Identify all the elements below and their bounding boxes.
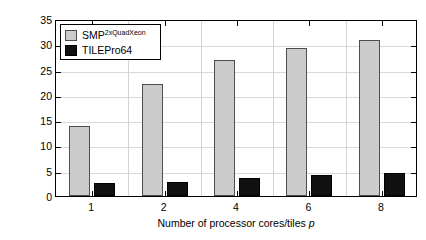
y-tick-mark <box>411 147 416 148</box>
bar-tile-2 <box>167 182 188 196</box>
y-tick-mark <box>411 97 416 98</box>
x-axis-title-variable: p <box>309 217 315 229</box>
legend-item-smp: SMP2xQuadXeon <box>65 28 146 42</box>
x-tick-mark <box>382 21 383 26</box>
y-tick-label: 15 <box>12 115 52 127</box>
x-gridline <box>201 21 202 196</box>
legend-swatch-tilepro64-icon <box>65 45 77 56</box>
legend: SMP2xQuadXeon TILEPro64 <box>60 24 161 60</box>
x-tick-label: 4 <box>216 201 256 213</box>
bar-tile-1 <box>94 183 115 196</box>
y-tick-label: 20 <box>12 90 52 102</box>
bar-smp-4 <box>214 60 235 196</box>
x-axis-title: Number of processor cores/tiles p <box>55 217 417 229</box>
x-tick-mark <box>165 191 166 196</box>
x-tick-mark <box>165 21 166 26</box>
x-tick-mark <box>237 21 238 26</box>
y-tick-mark <box>411 46 416 47</box>
y-tick-label: 25 <box>12 65 52 77</box>
y-tick-mark <box>56 72 61 73</box>
y-tick-mark <box>411 173 416 174</box>
y-tick-label: 30 <box>12 39 52 51</box>
figure: MFLOPS/W 05101520253035 12468 Number of … <box>0 0 426 240</box>
bar-tile-6 <box>311 175 332 196</box>
x-axis-title-text: Number of processor cores/tiles <box>158 217 309 229</box>
y-tick-label: 10 <box>12 140 52 152</box>
y-tick-mark <box>56 97 61 98</box>
x-tick-mark <box>382 191 383 196</box>
legend-label-smp: SMP2xQuadXeon <box>82 30 146 41</box>
x-tick-label: 1 <box>71 201 111 213</box>
legend-swatch-smp-icon <box>65 30 77 41</box>
bar-smp-1 <box>69 126 90 196</box>
x-tick-label: 6 <box>288 201 328 213</box>
bar-tile-4 <box>239 178 260 196</box>
x-tick-label: 8 <box>361 201 401 213</box>
y-tick-label: 35 <box>12 14 52 26</box>
x-tick-mark <box>237 191 238 196</box>
legend-item-tilepro64: TILEPro64 <box>65 43 132 57</box>
y-tick-mark <box>56 173 61 174</box>
x-tick-mark <box>309 21 310 26</box>
y-tick-mark <box>56 122 61 123</box>
bar-smp-2 <box>142 84 163 196</box>
y-tick-label: 5 <box>12 166 52 178</box>
x-tick-mark <box>309 191 310 196</box>
legend-label-tilepro64: TILEPro64 <box>82 45 132 56</box>
x-gridline <box>273 21 274 196</box>
x-gridline <box>346 21 347 196</box>
y-tick-mark <box>411 122 416 123</box>
y-tick-mark <box>56 147 61 148</box>
bar-smp-8 <box>359 40 380 196</box>
x-tick-label: 2 <box>144 201 184 213</box>
y-tick-label: 0 <box>12 191 52 203</box>
bar-tile-8 <box>384 173 405 196</box>
x-tick-mark <box>92 191 93 196</box>
bar-smp-6 <box>286 48 307 196</box>
y-tick-mark <box>411 72 416 73</box>
